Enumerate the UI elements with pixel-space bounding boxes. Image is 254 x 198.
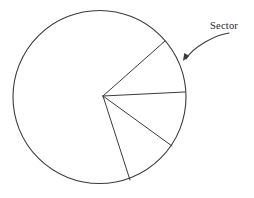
- callout-arrowhead-icon: [183, 53, 189, 61]
- radii-group: [103, 41, 185, 180]
- radius-bottom: [103, 96, 130, 180]
- radius-lower-right: [103, 96, 172, 146]
- circle-outline: [13, 11, 186, 184]
- radius-upper-right: [103, 41, 165, 96]
- figure-canvas: Sector: [0, 0, 254, 198]
- callout-leader-line: [186, 33, 229, 59]
- sector-diagram-figure: Sector: [0, 0, 254, 198]
- callout-label-sector: Sector: [210, 20, 238, 31]
- radius-right-horizontal: [103, 92, 185, 96]
